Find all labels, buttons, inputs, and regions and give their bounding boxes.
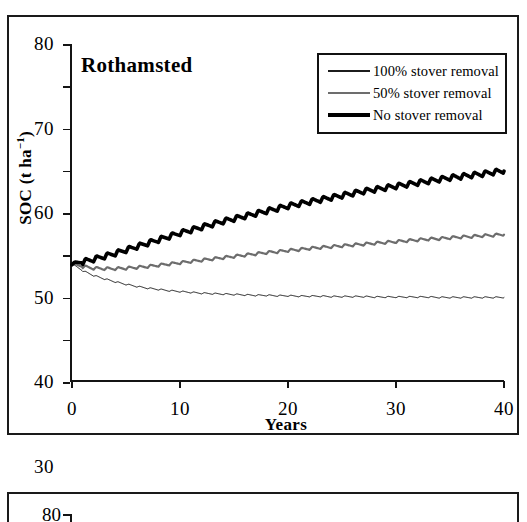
x-axis-tick-mark: 0 (71, 381, 73, 388)
x-axis-tick-mark: 40 (503, 381, 505, 388)
y-axis-title-tail: ) (16, 131, 35, 137)
x-axis-tick-label: 20 (278, 399, 298, 418)
y-axis-tick-mark: 40 (63, 213, 70, 215)
legend: 100% stover removal50% stover removalNo … (317, 53, 507, 134)
plot-area-second: 80 (70, 514, 502, 522)
legend-item[interactable]: 100% stover removal (325, 60, 499, 82)
y-axis-tick-mark: 0 (63, 382, 70, 384)
y-axis-tick-mark: 30 (63, 255, 70, 257)
y-axis-tick-mark: 50 (63, 171, 70, 173)
y-axis-tick-label: 30 (34, 457, 54, 476)
legend-item-label: No stover removal (373, 107, 483, 124)
x-axis-tick-label: 30 (386, 399, 406, 418)
legend-line-swatch (325, 92, 373, 95)
legend-item-label: 50% stover removal (373, 85, 492, 102)
y-axis-title-main: SOC (t ha (16, 149, 35, 224)
x-axis-tick-mark: 30 (395, 381, 397, 388)
y-axis-title: SOC (t ha−1) (14, 78, 36, 278)
legend-line-swatch (325, 113, 373, 117)
legend-item[interactable]: 50% stover removal (325, 82, 499, 104)
y-axis-tick-mark: 20 (63, 298, 70, 300)
legend-line-swatch (325, 70, 373, 71)
y-axis-tick-label: 40 (34, 372, 54, 391)
y-axis-tick-mark (63, 514, 70, 516)
y-axis-line-second (70, 514, 72, 522)
chart-panel-rothamsted: Rothamsted SOC (t ha−1) Years 0102030405… (7, 15, 519, 435)
y-axis-tick-label: 80 (34, 34, 54, 53)
x-axis-tick-label: 0 (67, 399, 77, 418)
y-axis-tick-mark: 70 (63, 86, 70, 88)
y-axis-tick-mark: 10 (63, 340, 70, 342)
x-axis-tick-mark: 10 (179, 381, 181, 388)
y-axis-tick-label: 70 (34, 119, 54, 138)
legend-item-label: 100% stover removal (373, 63, 499, 80)
series-line (72, 234, 504, 270)
x-axis-tick-label: 10 (170, 399, 190, 418)
x-axis-tick-mark: 20 (287, 381, 289, 388)
x-axis-tick-label: 40 (494, 399, 514, 418)
y-axis-title-superscript: −1 (14, 137, 26, 149)
chart-panel-second-partial: 80 (7, 492, 519, 522)
y-axis-tick-mark: 60 (63, 129, 70, 131)
y-axis-tick-mark: 80 (63, 44, 70, 46)
legend-item[interactable]: No stover removal (325, 104, 499, 126)
y-axis-tick-label: 50 (34, 288, 54, 307)
y-axis-tick-label: 80 (42, 504, 61, 522)
y-axis-tick-label: 60 (34, 203, 54, 222)
